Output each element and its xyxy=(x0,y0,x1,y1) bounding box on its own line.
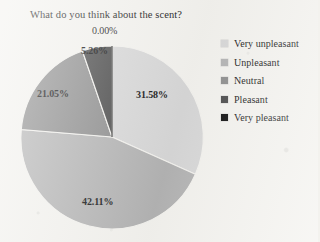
legend-label: Neutral xyxy=(234,75,264,86)
legend-item-very-unpleasant[interactable]: Very unpleasant xyxy=(221,38,299,49)
legend-swatch-icon xyxy=(221,59,228,66)
legend-item-unpleasant[interactable]: Unpleasant xyxy=(221,57,299,68)
legend-swatch-icon xyxy=(221,114,228,121)
legend-item-neutral[interactable]: Neutral xyxy=(221,75,299,86)
legend-item-pleasant[interactable]: Pleasant xyxy=(221,94,299,105)
slice-value-pleasant: 5.26% xyxy=(81,45,108,56)
legend-swatch-icon xyxy=(221,40,228,47)
legend-label: Unpleasant xyxy=(234,57,280,68)
chart-legend: Very unpleasant Unpleasant Neutral Pleas… xyxy=(221,38,299,123)
legend-label: Very unpleasant xyxy=(234,38,299,49)
legend-swatch-icon xyxy=(221,77,228,84)
legend-swatch-icon xyxy=(221,96,228,103)
legend-label: Pleasant xyxy=(234,94,268,105)
slice-value-very-unpleasant: 31.58% xyxy=(136,89,168,100)
slice-value-very-pleasant: 0.00% xyxy=(92,25,117,36)
legend-item-very-pleasant[interactable]: Very pleasant xyxy=(221,112,299,123)
slice-value-neutral: 21.05% xyxy=(37,88,69,99)
legend-label: Very pleasant xyxy=(234,112,289,123)
slice-value-unpleasant: 42.11% xyxy=(82,196,113,207)
